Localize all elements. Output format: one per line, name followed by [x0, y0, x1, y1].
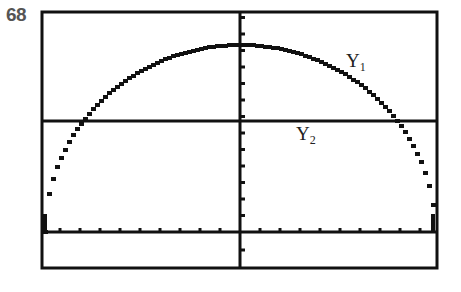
y2-label: Y2: [296, 123, 316, 148]
axes: [42, 12, 437, 268]
calculator-graph: [0, 0, 461, 292]
y1-label: Y1: [346, 50, 366, 75]
